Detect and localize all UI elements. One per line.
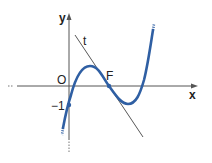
y-intercept-label: −1 — [51, 99, 65, 113]
inflection-point-label: F — [106, 69, 113, 83]
origin-label: O — [57, 73, 66, 87]
tangent-label: t — [83, 34, 87, 48]
y-axis — [67, 13, 72, 152]
cubic-function-graph: y x O t F −1 — [0, 0, 212, 163]
x-axis — [8, 84, 198, 89]
x-axis-label: x — [189, 88, 196, 102]
inflection-point-f — [107, 84, 111, 88]
y-axis-arrow-icon — [67, 13, 72, 20]
y-intercept-point — [67, 103, 71, 107]
y-axis-label: y — [59, 11, 66, 25]
